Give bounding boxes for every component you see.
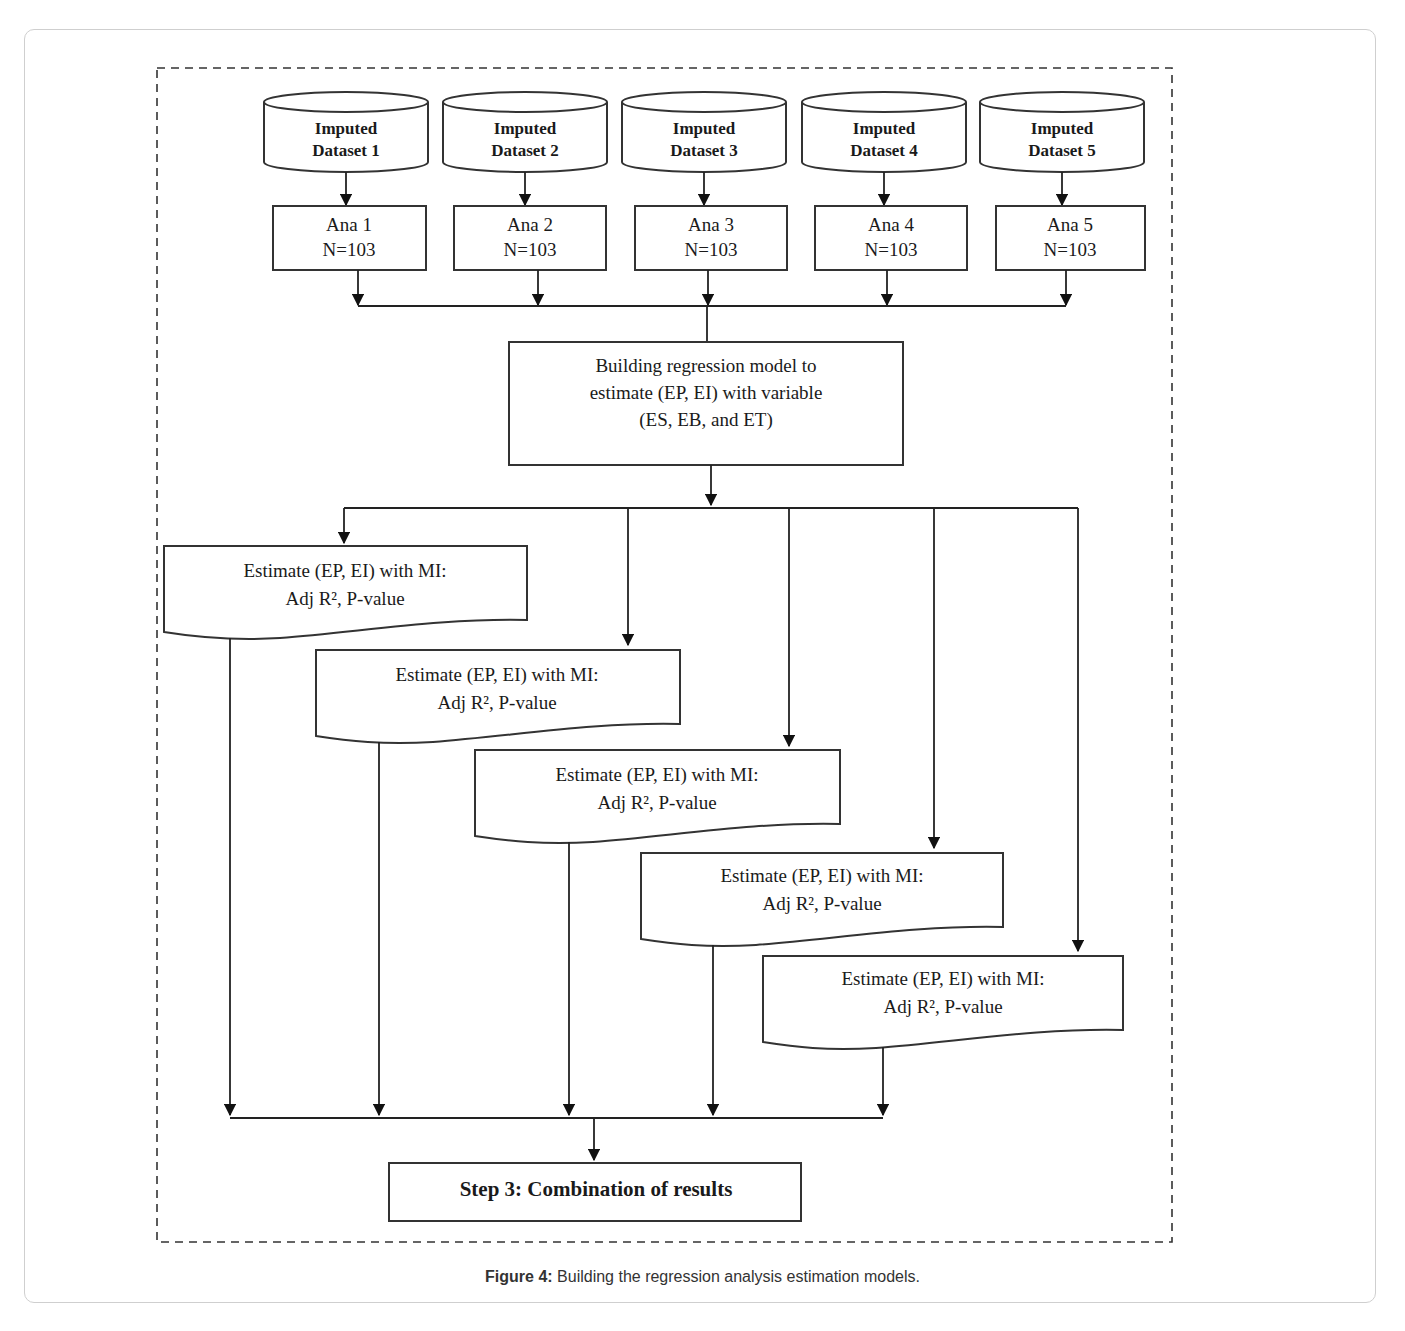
analysis-label: Ana 1 <box>326 214 372 235</box>
dataset-to-analysis-arrows <box>346 172 1062 205</box>
model-label-line1: Building regression model to <box>595 355 816 376</box>
dataset-cylinder-2: Imputed Dataset 2 <box>443 92 607 172</box>
analysis-box-2: Ana 2 N=103 <box>454 206 606 270</box>
dataset-label-line1: Imputed <box>853 119 916 138</box>
dataset-label-line2: Dataset 3 <box>670 141 738 160</box>
estimate-label-line1: Estimate (EP, EI) with MI: <box>555 764 758 786</box>
analysis-label: Ana 3 <box>688 214 734 235</box>
analysis-box-1: Ana 1 N=103 <box>273 206 426 270</box>
estimate-document-2: Estimate (EP, EI) with MI: Adj R², P-val… <box>316 650 680 743</box>
estimate-document-5: Estimate (EP, EI) with MI: Adj R², P-val… <box>763 956 1123 1049</box>
dataset-label-line1: Imputed <box>1031 119 1094 138</box>
figure-caption-text: Building the regression analysis estimat… <box>553 1268 920 1285</box>
analysis-sample-size: N=103 <box>1044 239 1097 260</box>
estimate-label-line1: Estimate (EP, EI) with MI: <box>720 865 923 887</box>
dataset-cylinder-3: Imputed Dataset 3 <box>622 92 786 172</box>
estimate-label-line2: Adj R², P-value <box>762 893 881 914</box>
dataset-label-line1: Imputed <box>494 119 557 138</box>
analysis-label: Ana 5 <box>1047 214 1093 235</box>
analysis-label: Ana 2 <box>507 214 553 235</box>
estimate-document-1: Estimate (EP, EI) with MI: Adj R², P-val… <box>164 546 527 639</box>
dataset-label-line2: Dataset 1 <box>312 141 380 160</box>
dataset-label-line2: Dataset 5 <box>1028 141 1096 160</box>
analysis-sample-size: N=103 <box>323 239 376 260</box>
estimate-label-line2: Adj R², P-value <box>883 996 1002 1017</box>
analysis-box-5: Ana 5 N=103 <box>996 206 1145 270</box>
analysis-box-3: Ana 3 N=103 <box>635 206 787 270</box>
estimate-document-4: Estimate (EP, EI) with MI: Adj R², P-val… <box>641 853 1003 946</box>
dataset-label-line1: Imputed <box>315 119 378 138</box>
analysis-sample-size: N=103 <box>685 239 738 260</box>
flowchart: Imputed Dataset 1 Imputed Dataset 2 Impu… <box>0 0 1405 1331</box>
estimate-label-line1: Estimate (EP, EI) with MI: <box>243 560 446 582</box>
estimate-label-line2: Adj R², P-value <box>437 692 556 713</box>
estimate-document-3: Estimate (EP, EI) with MI: Adj R², P-val… <box>475 750 840 843</box>
combination-results-box: Step 3: Combination of results <box>389 1163 801 1221</box>
estimate-label-line2: Adj R², P-value <box>597 792 716 813</box>
estimate-label-line1: Estimate (EP, EI) with MI: <box>395 664 598 686</box>
combination-label: Step 3: Combination of results <box>460 1177 733 1201</box>
figure-caption-label: Figure 4: <box>485 1268 553 1285</box>
dataset-label-line1: Imputed <box>673 119 736 138</box>
analysis-label: Ana 4 <box>868 214 914 235</box>
dataset-cylinder-5: Imputed Dataset 5 <box>980 92 1144 172</box>
dataset-label-line2: Dataset 2 <box>491 141 559 160</box>
dataset-cylinder-4: Imputed Dataset 4 <box>802 92 966 172</box>
dataset-cylinder-1: Imputed Dataset 1 <box>264 92 428 172</box>
estimate-label-line1: Estimate (EP, EI) with MI: <box>841 968 1044 990</box>
model-label-line3: (ES, EB, and ET) <box>639 409 773 431</box>
figure-caption: Figure 4: Building the regression analys… <box>0 1268 1405 1286</box>
analysis-sample-size: N=103 <box>865 239 918 260</box>
estimate-label-line2: Adj R², P-value <box>285 588 404 609</box>
analysis-merge-connector <box>358 270 1066 342</box>
regression-model-box: Building regression model to estimate (E… <box>509 342 903 465</box>
analysis-box-4: Ana 4 N=103 <box>815 206 967 270</box>
dataset-label-line2: Dataset 4 <box>850 141 918 160</box>
analysis-sample-size: N=103 <box>504 239 557 260</box>
model-label-line2: estimate (EP, EI) with variable <box>590 382 823 404</box>
